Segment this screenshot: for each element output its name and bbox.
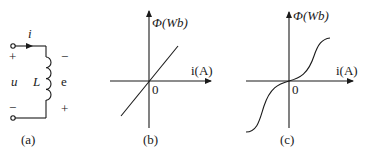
emf-label: e [61,74,67,89]
saturation-curve [246,38,330,132]
panel-a-caption: (a) [21,132,35,147]
top-terminal-icon [11,44,15,48]
current-arrow-icon [26,43,33,49]
panel-a-circuit: i + u L e − − + (a) [9,26,68,147]
current-label: i [28,26,32,41]
e-minus-sign: − [61,49,68,64]
origin-label: 0 [152,82,159,97]
inductor-label: L [32,74,40,89]
u-minus-sign: − [9,100,16,115]
y-axis-label: Φ(Wb) [293,8,329,23]
panel-c-caption: (c) [280,132,294,147]
panel-b-caption: (b) [143,132,158,147]
e-plus-sign: + [61,101,68,116]
x-axis-label: i(A) [336,63,358,78]
origin-label: 0 [292,82,299,97]
figure-canvas: i + u L e − − + (a) Φ(Wb) i(A) 0 (b) Φ(W… [0,0,366,153]
panel-c-graph: Φ(Wb) i(A) 0 (c) [246,8,358,147]
u-plus-sign: + [9,49,16,64]
y-axis-label: Φ(Wb) [152,15,188,30]
x-axis-label: i(A) [191,63,213,78]
bottom-terminal-icon [11,116,15,120]
voltage-label: u [11,74,18,89]
inductor-coil-icon [46,57,51,100]
panel-b-graph: Φ(Wb) i(A) 0 (b) [110,11,213,147]
